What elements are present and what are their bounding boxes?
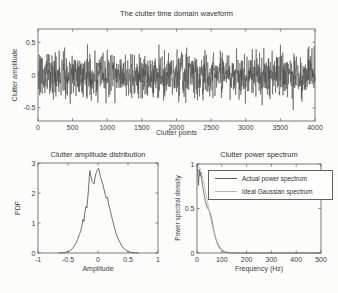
series-1-0	[58, 168, 138, 253]
legend-line-actual-icon	[215, 178, 237, 179]
ytick-label-1: 2	[32, 190, 36, 197]
pdf-xlabel: Amplitude	[38, 265, 158, 273]
xtick-label-1: -1	[35, 256, 41, 263]
ytick-label-2: 1	[191, 161, 195, 168]
xtick-label-2: 100	[216, 256, 228, 263]
series-0-0	[38, 44, 315, 110]
matlab-figure: 050010001500200025003000350040000.50-0.5…	[0, 0, 338, 293]
legend-label-actual: Actual power spectrum	[242, 175, 307, 183]
xtick-label-2: 0	[195, 256, 199, 263]
spectrum-title: Clutter power spectrum	[187, 150, 331, 159]
xtick-label-1: -0.5	[62, 256, 74, 263]
xtick-label-2: 500	[315, 256, 327, 263]
ytick-label-2: 0.5	[185, 205, 195, 212]
ytick-label-0: 0.5	[26, 39, 36, 46]
legend-label-ideal: Ideal Gaussian spectrum	[242, 188, 313, 196]
axes-frame-1	[38, 163, 158, 253]
xtick-label-1: 1	[156, 256, 160, 263]
ytick-label-0: 0	[32, 72, 36, 79]
xtick-label-2: 400	[290, 256, 302, 263]
pdf-ylabel: PDF	[13, 148, 23, 268]
legend-entry-actual: Actual power spectrum	[209, 172, 332, 185]
ytick-label-1: 1	[32, 220, 36, 227]
spectrum-xlabel: Frequency (Hz)	[197, 265, 321, 273]
waveform-xlabel: Clutter points	[38, 129, 315, 137]
ytick-label-0: -0.5	[23, 104, 35, 111]
pdf-title: Clutter amplitude distribution	[28, 150, 168, 159]
legend-line-ideal-icon	[215, 191, 237, 192]
xtick-label-2: 300	[266, 256, 278, 263]
xtick-label-1: 0	[96, 256, 100, 263]
ytick-label-2: 0	[191, 250, 195, 257]
charts-canvas: 050010001500200025003000350040000.50-0.5…	[0, 0, 338, 293]
ytick-label-1: 3	[32, 160, 36, 167]
spectrum-legend: Actual power spectrum Ideal Gaussian spe…	[208, 170, 333, 200]
waveform-title: The clutter time domain waveform	[38, 9, 315, 18]
waveform-ylabel: Clutter amplitude	[10, 15, 20, 135]
legend-entry-ideal: Ideal Gaussian spectrum	[209, 185, 332, 198]
xtick-label-1: 0.5	[123, 256, 133, 263]
xtick-label-2: 200	[241, 256, 253, 263]
ytick-label-1: 0	[32, 250, 36, 257]
spectrum-ylabel: Power spectral density	[173, 148, 183, 268]
